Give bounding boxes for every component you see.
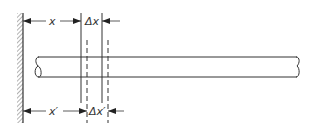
rod-right-break-icon	[296, 57, 299, 77]
label-x: x	[48, 15, 56, 28]
dimension-delta-x-prime: Δx′	[88, 105, 124, 118]
dimension-x-prime: x′	[23, 105, 87, 118]
fixed-wall	[17, 13, 23, 123]
label-x-prime: x′	[48, 105, 59, 118]
label-delta-x: Δx	[84, 15, 100, 28]
label-delta-x-prime: Δx′	[88, 105, 106, 118]
rod-displacement-diagram: x Δx x′ Δx′	[0, 0, 313, 132]
dimension-x: x	[23, 15, 81, 28]
rod	[35, 57, 299, 77]
wall-hatch	[17, 13, 23, 123]
rod-left-break-icon	[35, 57, 41, 77]
